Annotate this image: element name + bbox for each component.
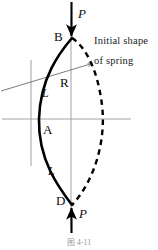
radius-label-r: R	[60, 76, 69, 89]
length-label-upper: L	[42, 87, 49, 99]
point-label-a: A	[43, 123, 52, 136]
point-label-b: B	[54, 30, 63, 43]
load-label-bottom: P	[79, 207, 87, 220]
spring-buckling-figure: P B R L A L D P Initial shape of spring …	[0, 0, 158, 250]
length-label-lower: L	[48, 165, 55, 177]
annotation-line-2: of spring	[94, 56, 133, 67]
load-label-top: P	[78, 7, 86, 20]
point-label-d: D	[56, 194, 65, 207]
annotation-line-1: Initial shape	[94, 36, 148, 47]
figure-caption: 图 4-11	[0, 236, 158, 247]
